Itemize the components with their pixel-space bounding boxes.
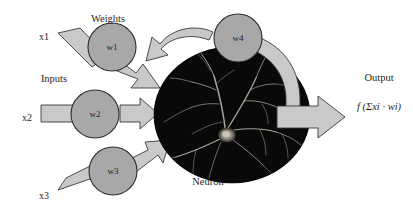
output-section-label: Output [364, 72, 393, 83]
weight-node-w4-label: w4 [233, 33, 244, 43]
weight-node-w1[interactable]: w1 [88, 23, 136, 71]
weight-node-w3[interactable]: w3 [89, 147, 137, 195]
inputs-section-label: Inputs [41, 73, 67, 84]
output-formula: f (Σxi · wi) [357, 101, 402, 113]
input-label-x2: x2 [22, 112, 32, 123]
neuron-diagram-figure: w1 w2 w3 w4 Weights Inputs Neuron Output… [0, 0, 413, 211]
input-label-x3: x3 [39, 190, 49, 201]
weights-section-label: Weights [91, 13, 125, 24]
weight-node-w4[interactable]: w4 [214, 14, 262, 62]
weight-node-w3-label: w3 [108, 166, 119, 176]
neuron-section-label: Neuron [192, 176, 224, 187]
input-label-x1: x1 [39, 31, 49, 42]
weight-node-w2-label: w2 [90, 109, 101, 119]
weight-node-w2[interactable]: w2 [71, 90, 119, 138]
weight-node-w1-label: w1 [107, 42, 118, 52]
diagram-canvas: w1 w2 w3 w4 Weights Inputs Neuron Output… [0, 0, 413, 211]
